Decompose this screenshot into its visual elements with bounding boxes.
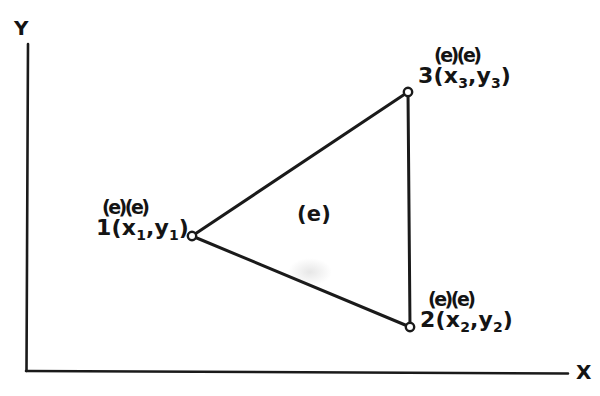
node-marker-2 [406,323,414,331]
element-interior-label: (e) [297,204,331,225]
node-2-y-subscript: 2 [493,319,503,335]
node-label-3: (e)(e) 3(x3,y3) [418,46,511,90]
node-2-coord-suffix: ) [503,307,513,332]
node-3-coordinates: 3(x3,y3) [418,65,511,90]
node-marker-1 [188,232,196,240]
x-axis-label: X [576,362,592,382]
y-axis-label: Y [14,18,29,38]
node-3-coord-prefix: 3(x [418,63,458,88]
node-1-coord-suffix: ) [179,215,189,240]
node-3-y-subscript: 3 [491,75,501,91]
node-2-coordinates: 2(x2,y2) [420,309,513,334]
node-2-coord-comma: ,y [470,307,493,332]
node-1-coord-prefix: 1(x [96,215,136,240]
node-1-coord-comma: ,y [146,215,169,240]
node-1-x-subscript: 1 [136,227,146,243]
node-2-x-subscript: 2 [460,319,470,335]
node-label-2: (e)(e) 2(x2,y2) [420,290,513,334]
node-3-coord-comma: ,y [468,63,491,88]
node-label-1: (e)(e) 1(x1,y1) [96,198,189,242]
y-axis-line [27,44,29,371]
element-edge-3-2 [408,92,410,327]
node-2-coord-prefix: 2(x [420,307,460,332]
node-3-coord-suffix: ) [501,63,511,88]
node-1-coordinates: 1(x1,y1) [96,217,189,242]
element-edge-2-1 [192,236,410,327]
node-marker-3 [404,88,412,96]
node-1-y-subscript: 1 [169,227,179,243]
x-axis-line [26,371,568,374]
node-3-x-subscript: 3 [458,75,468,91]
triangular-element-figure: Y X (e)(e) 1(x1,y1) (e)(e) 2(x2,y2) (e)(… [0,0,600,396]
